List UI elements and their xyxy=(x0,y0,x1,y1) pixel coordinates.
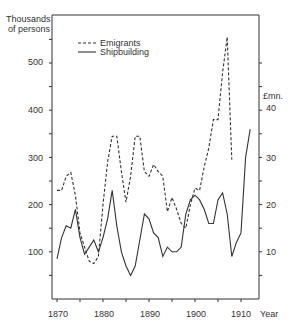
y-left-tick-500: 500 xyxy=(28,57,43,67)
left-axis-title-line1: Thousands xyxy=(6,14,50,24)
legend-shipbuilding-label: Shipbuilding xyxy=(100,47,149,57)
left-axis-title-line2: of persons xyxy=(6,24,50,34)
y-right-tick-40: 40 xyxy=(266,103,276,113)
x-tick-1870: 1870 xyxy=(48,309,68,319)
x-tick-1880: 1880 xyxy=(94,309,114,319)
y-left-tick-200: 200 xyxy=(28,200,43,210)
x-tick-1900: 1900 xyxy=(186,309,206,319)
y-left-tick-400: 400 xyxy=(28,105,43,115)
y-left-tick-300: 300 xyxy=(28,153,43,163)
y-left-tick-100: 100 xyxy=(28,247,43,257)
y-right-tick-10: 10 xyxy=(266,247,276,257)
y-right-tick-30: 30 xyxy=(266,153,276,163)
right-axis-title: £mn. xyxy=(263,91,283,101)
shipbuilding-line xyxy=(57,129,250,275)
x-axis-title: Year xyxy=(260,309,278,319)
left-axis-title: Thousands of persons xyxy=(6,14,50,34)
emigrants-line xyxy=(57,37,232,264)
axis-ticks xyxy=(49,39,262,302)
x-tick-1910: 1910 xyxy=(231,309,251,319)
x-tick-1890: 1890 xyxy=(140,309,160,319)
y-right-tick-20: 20 xyxy=(266,200,276,210)
